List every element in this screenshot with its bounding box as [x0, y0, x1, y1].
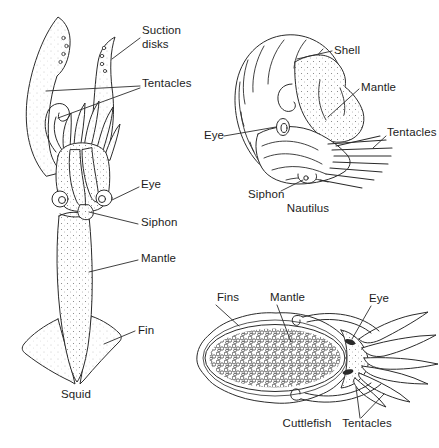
- label-squid-fin: Fin: [138, 323, 154, 337]
- label-nautilus-tentacles: Tentacles: [387, 125, 436, 139]
- leader-cuttlefish-tentacles-a: [356, 387, 360, 418]
- cephalopod-anatomy-diagram: Suction disks Tentacles Eye Siphon Mantl…: [0, 0, 439, 448]
- label-nautilus-shell: Shell: [334, 43, 360, 57]
- caption-cuttlefish: Cuttlefish: [278, 416, 336, 430]
- cuttlefish-arms: [354, 312, 438, 407]
- label-nautilus-mantle: Mantle: [361, 80, 396, 94]
- label-squid-siphon: Siphon: [141, 215, 177, 229]
- illustration-canvas: [0, 0, 439, 448]
- cuttlefish-illustration: [197, 312, 438, 407]
- leader-squid-eye: [112, 187, 139, 200]
- squid-illustration: [22, 17, 121, 384]
- label-nautilus-siphon: Siphon: [248, 187, 284, 201]
- squid-eye-left: [52, 191, 68, 207]
- leader-squid-suction-disks: [112, 38, 140, 59]
- cuttlefish-mantle-texture: [210, 329, 341, 388]
- label-squid-suction-disks: Suction disks: [142, 23, 190, 51]
- label-squid-tentacles: Tentacles: [142, 76, 191, 90]
- label-nautilus-eye: Eye: [204, 128, 224, 142]
- leader-squid-tentacles-a: [46, 86, 140, 91]
- label-cuttlefish-fins: Fins: [217, 290, 239, 304]
- nautilus-illustration: [235, 35, 392, 188]
- caption-squid: Squid: [54, 387, 98, 401]
- leader-squid-mantle: [89, 260, 138, 272]
- caption-nautilus: Nautilus: [280, 201, 336, 215]
- leader-nautilus-tentacles: [373, 136, 386, 148]
- label-cuttlefish-tentacles: Tentacles: [342, 416, 392, 430]
- squid-eye-right: [96, 190, 112, 206]
- label-squid-eye: Eye: [141, 177, 161, 191]
- nautilus-eye: [277, 119, 290, 136]
- label-cuttlefish-eye: Eye: [369, 291, 389, 305]
- label-squid-mantle: Mantle: [141, 251, 176, 265]
- leader-squid-siphon: [89, 212, 138, 224]
- label-cuttlefish-mantle: Mantle: [270, 290, 305, 304]
